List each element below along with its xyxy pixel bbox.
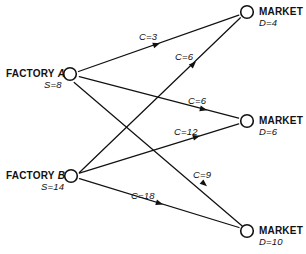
node-supply-factory-b: S=14 <box>41 181 64 192</box>
edge-cost-label-a-1: C=3 <box>139 31 157 42</box>
edge-factory-a-market-2 <box>79 77 238 119</box>
node-factory-b[interactable] <box>65 170 78 183</box>
market-2-name-prefix: MARKET <box>259 115 303 126</box>
edge-cost-label-b-1: C=6 <box>175 51 193 62</box>
edge-cost-label-a-2: C=6 <box>188 95 206 106</box>
edge-line-a-2 <box>79 77 238 119</box>
node-supply-factory-a: S=8 <box>44 79 62 90</box>
edge-line-b-2 <box>79 124 238 173</box>
market-3-name-prefix: MARKET <box>259 225 303 236</box>
node-label-market-1: MARKET I <box>259 6 306 17</box>
market-1-name-prefix: MARKET <box>259 6 303 17</box>
edge-line-b-1 <box>79 18 240 173</box>
factory-a-name-prefix: FACTORY <box>6 68 55 79</box>
node-market-1[interactable] <box>241 6 254 19</box>
arrow-head-b-3 <box>155 200 164 208</box>
edge-cost-label-b-2: C=12 <box>174 126 198 137</box>
node-factory-a[interactable] <box>64 68 77 81</box>
edge-factory-b-market-1 <box>79 18 240 173</box>
edge-cost-label-b-3: C=18 <box>131 190 155 201</box>
node-label-factory-a: FACTORY A <box>6 68 65 79</box>
edge-factory-a-market-1 <box>79 15 239 71</box>
transportation-network-diagram: FACTORY A S=8 FACTORY B S=14 MARKET I D=… <box>0 0 306 254</box>
factory-b-name-prefix: FACTORY <box>6 170 55 181</box>
node-market-2[interactable] <box>241 115 254 128</box>
edge-cost-label-a-3: C=9 <box>193 169 211 180</box>
node-demand-market-3: D=10 <box>259 236 283 247</box>
node-market-3[interactable] <box>241 225 254 238</box>
node-demand-market-1: D=4 <box>259 17 277 28</box>
factory-b-name-suffix: B <box>58 170 65 181</box>
arrow-head-a-3 <box>200 179 209 188</box>
factory-a-name-suffix: A <box>58 68 65 79</box>
node-label-factory-b: FACTORY B <box>6 170 65 181</box>
node-demand-market-2: D=6 <box>259 126 277 137</box>
node-label-market-2: MARKET II <box>259 115 306 126</box>
node-label-market-3: MARKET III <box>259 225 306 236</box>
edge-factory-b-market-2 <box>79 124 238 173</box>
